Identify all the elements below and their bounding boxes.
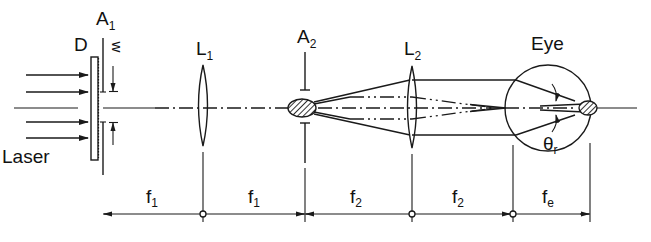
optical-diagram: Laser D A1 w L1 A2 [0,0,651,242]
dim-f2-second: f2 [452,186,464,210]
dim-fe: fe [542,186,554,210]
lens1-label: L1 [196,38,214,63]
laser-label: Laser [2,146,50,167]
eye-label: Eye [531,33,564,54]
aperture-a2 [288,52,316,222]
lens-l2 [408,66,417,222]
lens-l1 [199,65,208,222]
diffuser-label: D [74,34,88,55]
angle-label: θr [543,133,558,157]
diffuser-plate [91,57,99,160]
dim-f1-first: f1 [146,186,158,210]
dim-f2-first: f2 [350,186,362,210]
retinal-image [579,101,597,115]
dimension-line [103,211,590,217]
aperture-width-label: w [109,41,126,53]
aperture1-label: A1 [96,8,116,33]
aperture-a1 [100,38,118,175]
lens2-label: L2 [404,38,422,63]
aperture2-label: A2 [297,26,317,51]
laser-beam-arrows [26,75,88,138]
focal-spot [288,99,316,117]
dim-f1-second: f1 [248,186,260,210]
